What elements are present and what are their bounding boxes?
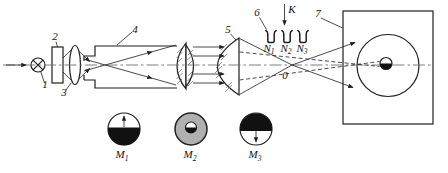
label-part-2: 2 bbox=[52, 30, 58, 42]
label-sample-n1: N1 bbox=[262, 42, 274, 57]
label-part-3: 3 bbox=[60, 86, 67, 98]
mode-diagram-m2 bbox=[175, 113, 207, 145]
mode-diagram-m1 bbox=[108, 113, 140, 145]
label-k: K bbox=[287, 3, 296, 15]
label-focus-0: 0 bbox=[282, 69, 288, 81]
label-part-7: 7 bbox=[315, 7, 321, 19]
label-mode-m1: M1 bbox=[115, 148, 129, 163]
label-part-6: 6 bbox=[254, 6, 260, 18]
label-part-4: 4 bbox=[132, 23, 138, 35]
focusing-lens bbox=[218, 38, 240, 95]
label-part-1: 1 bbox=[42, 78, 48, 90]
mode-diagram-m3 bbox=[240, 113, 272, 145]
objective-doublet-lens bbox=[177, 43, 194, 89]
label-mode-m3: M3 bbox=[248, 148, 262, 163]
label-sample-n3: N3 bbox=[295, 42, 307, 57]
label-part-5: 5 bbox=[225, 23, 231, 35]
label-mode-m2: M2 bbox=[183, 148, 197, 163]
screen-center-sphere bbox=[380, 58, 392, 70]
optical-scheme-figure: 1 2 3 4 5 6 7 K 0 N1 N2 N3 M1 M2 M3 bbox=[0, 0, 448, 173]
label-sample-n2: N2 bbox=[279, 42, 291, 57]
